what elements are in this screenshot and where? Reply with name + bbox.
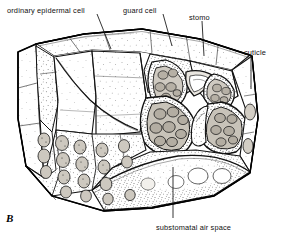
label-guard-cell: guard cell bbox=[123, 7, 157, 14]
figure-letter: B bbox=[6, 212, 13, 224]
label-substomatal-air-space: substomatal air space bbox=[156, 224, 231, 231]
label-cuticle: cuticle bbox=[244, 49, 266, 56]
label-ordinary-epidermal-cell: ordinary epidermal cell bbox=[7, 7, 85, 14]
ordinary-epidermal-cells bbox=[36, 46, 146, 136]
illustration-body bbox=[18, 14, 258, 218]
label-stoma: stomo bbox=[189, 14, 210, 21]
leaf-epidermis-diagram bbox=[0, 0, 287, 238]
